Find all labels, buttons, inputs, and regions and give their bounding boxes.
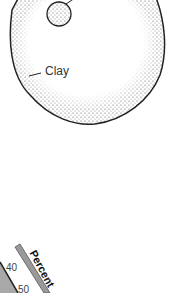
clay-label: Clay — [45, 64, 69, 78]
clay-particle — [10, 0, 164, 124]
tick-40: 40 — [6, 262, 17, 273]
soil-particle-illustration — [0, 0, 178, 293]
tick-50: 50 — [18, 284, 29, 293]
